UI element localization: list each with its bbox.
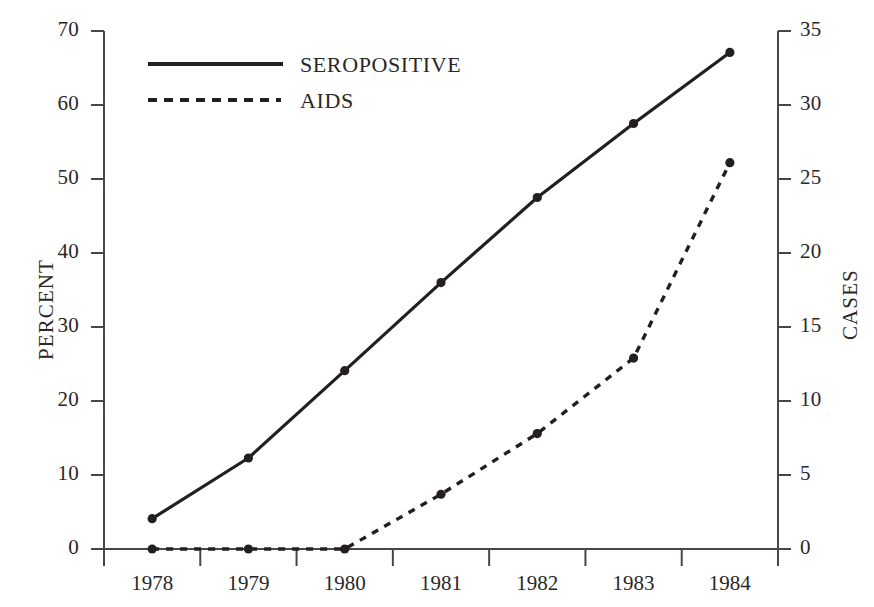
x-tick-label: 1979 <box>200 571 296 596</box>
right-tick-label: 5 <box>800 461 860 486</box>
x-tick-label: 1981 <box>393 571 489 596</box>
data-point <box>725 158 734 167</box>
data-point <box>725 48 734 57</box>
x-tick-label: 1982 <box>489 571 585 596</box>
legend-item-seropositive: SEROPOSITIVE <box>300 52 461 78</box>
data-point <box>629 119 638 128</box>
data-point <box>148 544 157 553</box>
y-axis-title-percent: PERCENT <box>34 259 59 360</box>
x-axis-ticks <box>104 549 778 566</box>
series-seropositive-markers <box>148 48 735 523</box>
right-tick-label: 10 <box>800 387 860 412</box>
left-tick-label: 20 <box>9 387 79 412</box>
right-tick-label: 0 <box>800 535 860 560</box>
left-tick-label: 50 <box>9 165 79 190</box>
series-aids-markers <box>148 158 735 553</box>
x-tick-label: 1978 <box>104 571 200 596</box>
right-tick-label: 20 <box>800 239 860 264</box>
left-axis-ticks <box>91 31 104 549</box>
data-point <box>436 490 445 499</box>
x-tick-label: 1980 <box>297 571 393 596</box>
data-point <box>436 278 445 287</box>
x-tick-label: 1984 <box>682 571 778 596</box>
left-tick-label: 70 <box>9 17 79 42</box>
data-point <box>533 193 542 202</box>
right-tick-label: 35 <box>800 17 860 42</box>
chart-figure: 010203040506070 05101520253035 197819791… <box>0 0 874 607</box>
left-tick-label: 10 <box>9 461 79 486</box>
legend-item-aids: AIDS <box>300 88 354 114</box>
data-point <box>340 366 349 375</box>
series-layer <box>148 48 735 554</box>
y-axis-title-cases: CASES <box>838 269 863 340</box>
right-tick-label: 25 <box>800 165 860 190</box>
right-axis-ticks <box>778 31 791 549</box>
data-point <box>148 514 157 523</box>
data-point <box>533 429 542 438</box>
right-tick-label: 30 <box>800 91 860 116</box>
data-point <box>629 353 638 362</box>
data-point <box>244 453 253 462</box>
chart-canvas <box>0 0 874 607</box>
left-tick-label: 0 <box>9 535 79 560</box>
legend-glyphs <box>148 64 283 100</box>
data-point <box>244 544 253 553</box>
data-point <box>340 544 349 553</box>
left-tick-label: 60 <box>9 91 79 116</box>
x-tick-label: 1983 <box>586 571 682 596</box>
